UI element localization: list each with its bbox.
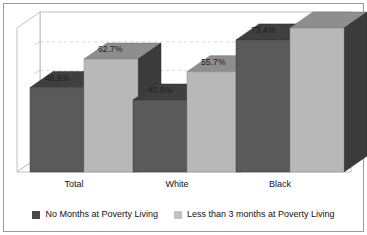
category-label-total: Total — [46, 180, 102, 189]
data-label-black-no-months: 73.4% — [251, 26, 276, 35]
category-label-black: Black — [252, 180, 308, 189]
chart-container: 46.9% 62.7% 40.0% 55.7% 73.4% Total Whit… — [0, 0, 367, 235]
data-label-white-less-than-3-months: 55.7% — [201, 58, 226, 67]
bar-front-face — [290, 28, 344, 172]
data-label-white-no-months: 40.0% — [148, 86, 173, 95]
chart-legend: No Months at Poverty Living Less than 3 … — [0, 210, 367, 219]
bar-front-face — [236, 40, 290, 172]
bar-front-face — [84, 59, 138, 172]
data-label-total-no-months: 46.9% — [45, 74, 70, 83]
legend-swatch-icon — [174, 211, 182, 219]
category-label-white: White — [149, 180, 205, 189]
legend-item-no-months[interactable]: No Months at Poverty Living — [32, 210, 158, 219]
bar-side-face — [344, 12, 367, 172]
legend-item-less-than-3-months[interactable]: Less than 3 months at Poverty Living — [174, 210, 335, 219]
bar-front-face — [30, 88, 84, 172]
legend-label-less-than-3-months: Less than 3 months at Poverty Living — [187, 210, 335, 219]
bar-front-face — [187, 72, 241, 172]
bar-black-less-than-3-months[interactable] — [290, 12, 367, 172]
legend-label-no-months: No Months at Poverty Living — [45, 210, 158, 219]
bar-front-face — [133, 100, 187, 172]
data-label-total-less-than-3-months: 62.7% — [98, 45, 123, 54]
legend-swatch-icon — [32, 211, 40, 219]
chart-plot-area — [0, 0, 367, 235]
